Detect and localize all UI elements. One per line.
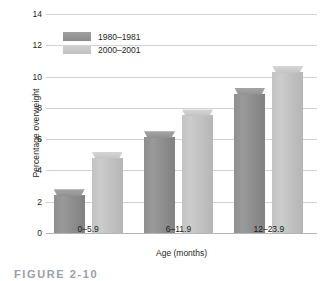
bar-body bbox=[144, 137, 175, 233]
x-axis-title: Age (months) bbox=[46, 248, 317, 258]
bar-group bbox=[144, 14, 213, 233]
bar-top-bevel bbox=[92, 152, 123, 159]
y-axis-tick-label: 10 bbox=[33, 72, 42, 82]
y-axis-tick-label: 8 bbox=[37, 103, 42, 113]
legend-swatch bbox=[63, 32, 91, 41]
legend-item: 2000–2001 bbox=[63, 43, 141, 56]
legend-swatch bbox=[63, 45, 91, 54]
y-axis-tick-label: 14 bbox=[33, 9, 42, 19]
legend-item: 1980–1981 bbox=[63, 30, 141, 43]
y-axis-tick-label: 0 bbox=[37, 228, 42, 238]
bar bbox=[272, 66, 303, 233]
figure-container: Percentage overweight 02468101214 0–5.96… bbox=[0, 0, 325, 281]
bar bbox=[182, 109, 213, 233]
x-axis-tick-label: 6–11.9 bbox=[166, 224, 191, 234]
bar-top-bevel bbox=[272, 66, 303, 73]
legend-label: 1980–1981 bbox=[98, 32, 141, 42]
bar bbox=[234, 88, 265, 233]
bar-body bbox=[92, 158, 123, 233]
y-axis-tick-label: 12 bbox=[33, 40, 42, 50]
y-axis-tick-label: 4 bbox=[37, 165, 42, 175]
bar-body bbox=[234, 94, 265, 233]
bar-body bbox=[272, 72, 303, 233]
bar bbox=[144, 131, 175, 233]
bar-group bbox=[234, 14, 303, 233]
bar bbox=[92, 152, 123, 233]
x-axis-tick-label: 12–23.9 bbox=[253, 224, 284, 234]
bar-body bbox=[182, 115, 213, 233]
legend-label: 2000–2001 bbox=[98, 45, 141, 55]
bar-top-bevel bbox=[182, 109, 213, 116]
bar-top-bevel bbox=[144, 131, 175, 138]
y-axis-tick-label: 6 bbox=[37, 134, 42, 144]
bar-top-bevel bbox=[54, 189, 85, 196]
bar-top-bevel bbox=[234, 88, 265, 95]
legend: 1980–19812000–2001 bbox=[63, 30, 141, 56]
y-axis-tick-label: 2 bbox=[37, 197, 42, 207]
x-axis-tick-label: 0–5.9 bbox=[78, 224, 99, 234]
figure-caption: FIGURE 2-10 bbox=[14, 268, 98, 281]
